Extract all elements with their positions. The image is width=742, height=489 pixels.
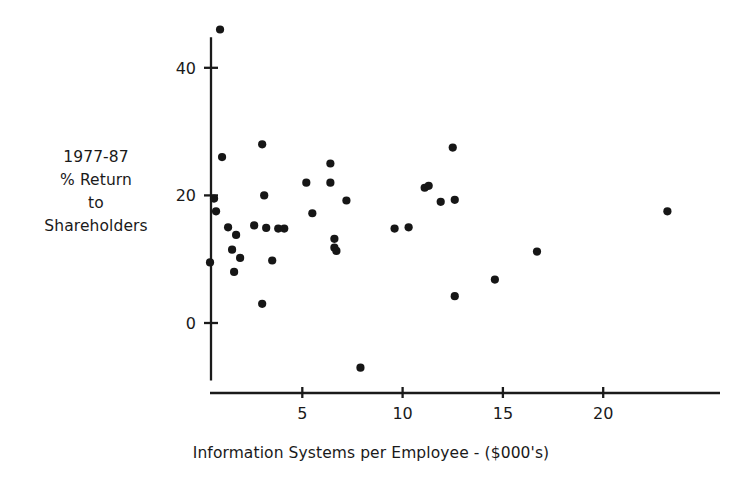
data-point (206, 258, 214, 266)
data-point (258, 300, 266, 308)
data-point (302, 179, 310, 187)
data-point (491, 276, 499, 284)
x-axis-tick-label: 10 (392, 404, 412, 423)
data-point (216, 25, 224, 33)
data-point (332, 247, 340, 255)
data-point (268, 256, 276, 264)
data-point (449, 143, 457, 151)
data-point (212, 207, 220, 215)
data-point (224, 223, 232, 231)
data-point (260, 191, 268, 199)
x-axis-tick-label: 20 (593, 404, 613, 423)
x-axis-label: Information Systems per Employee - ($000… (0, 444, 742, 462)
data-point (250, 221, 258, 229)
axes (210, 37, 720, 393)
data-point (262, 224, 270, 232)
data-point (326, 159, 334, 167)
data-point (451, 196, 459, 204)
data-point (425, 182, 433, 190)
data-point (405, 223, 413, 231)
x-axis-tick-label: 5 (297, 404, 307, 423)
data-point (330, 235, 338, 243)
data-point (210, 194, 218, 202)
data-point (236, 254, 244, 262)
data-point (280, 224, 288, 232)
axis-ticks (204, 68, 603, 398)
data-point (390, 224, 398, 232)
data-point (326, 179, 334, 187)
plot-canvas: 020405101520 (0, 0, 742, 489)
y-axis-tick-label: 0 (186, 314, 196, 333)
data-point (663, 207, 671, 215)
data-point (232, 231, 240, 239)
data-point (342, 196, 350, 204)
data-point (437, 198, 445, 206)
data-points (206, 25, 672, 371)
data-point (451, 292, 459, 300)
data-point (228, 246, 236, 254)
y-axis-tick-label: 20 (176, 186, 196, 205)
data-point (230, 268, 238, 276)
x-axis-tick-label: 15 (493, 404, 513, 423)
axis-tick-labels: 020405101520 (176, 59, 614, 423)
data-point (258, 140, 266, 148)
scatter-plot-figure: 1977-87 % Return to Shareholders 0204051… (0, 0, 742, 489)
data-point (218, 153, 226, 161)
data-point (308, 209, 316, 217)
data-point (533, 247, 541, 255)
y-axis-tick-label: 40 (176, 59, 196, 78)
data-point (356, 364, 364, 372)
